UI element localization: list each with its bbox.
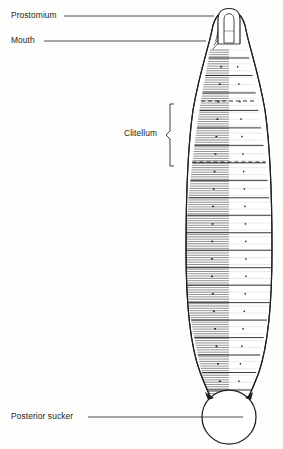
- label-posterior-sucker: Posterior sucker: [11, 411, 73, 421]
- prostomium-inner-papilla: [224, 14, 234, 43]
- label-mouth: Mouth: [11, 35, 35, 45]
- label-clitellum: Clitellum: [124, 128, 157, 138]
- leech-body: [185, 10, 273, 398]
- leech-anatomy-diagram: [0, 0, 283, 449]
- label-prostomium: Prostomium: [11, 10, 57, 20]
- clitellum-brace: [166, 104, 174, 166]
